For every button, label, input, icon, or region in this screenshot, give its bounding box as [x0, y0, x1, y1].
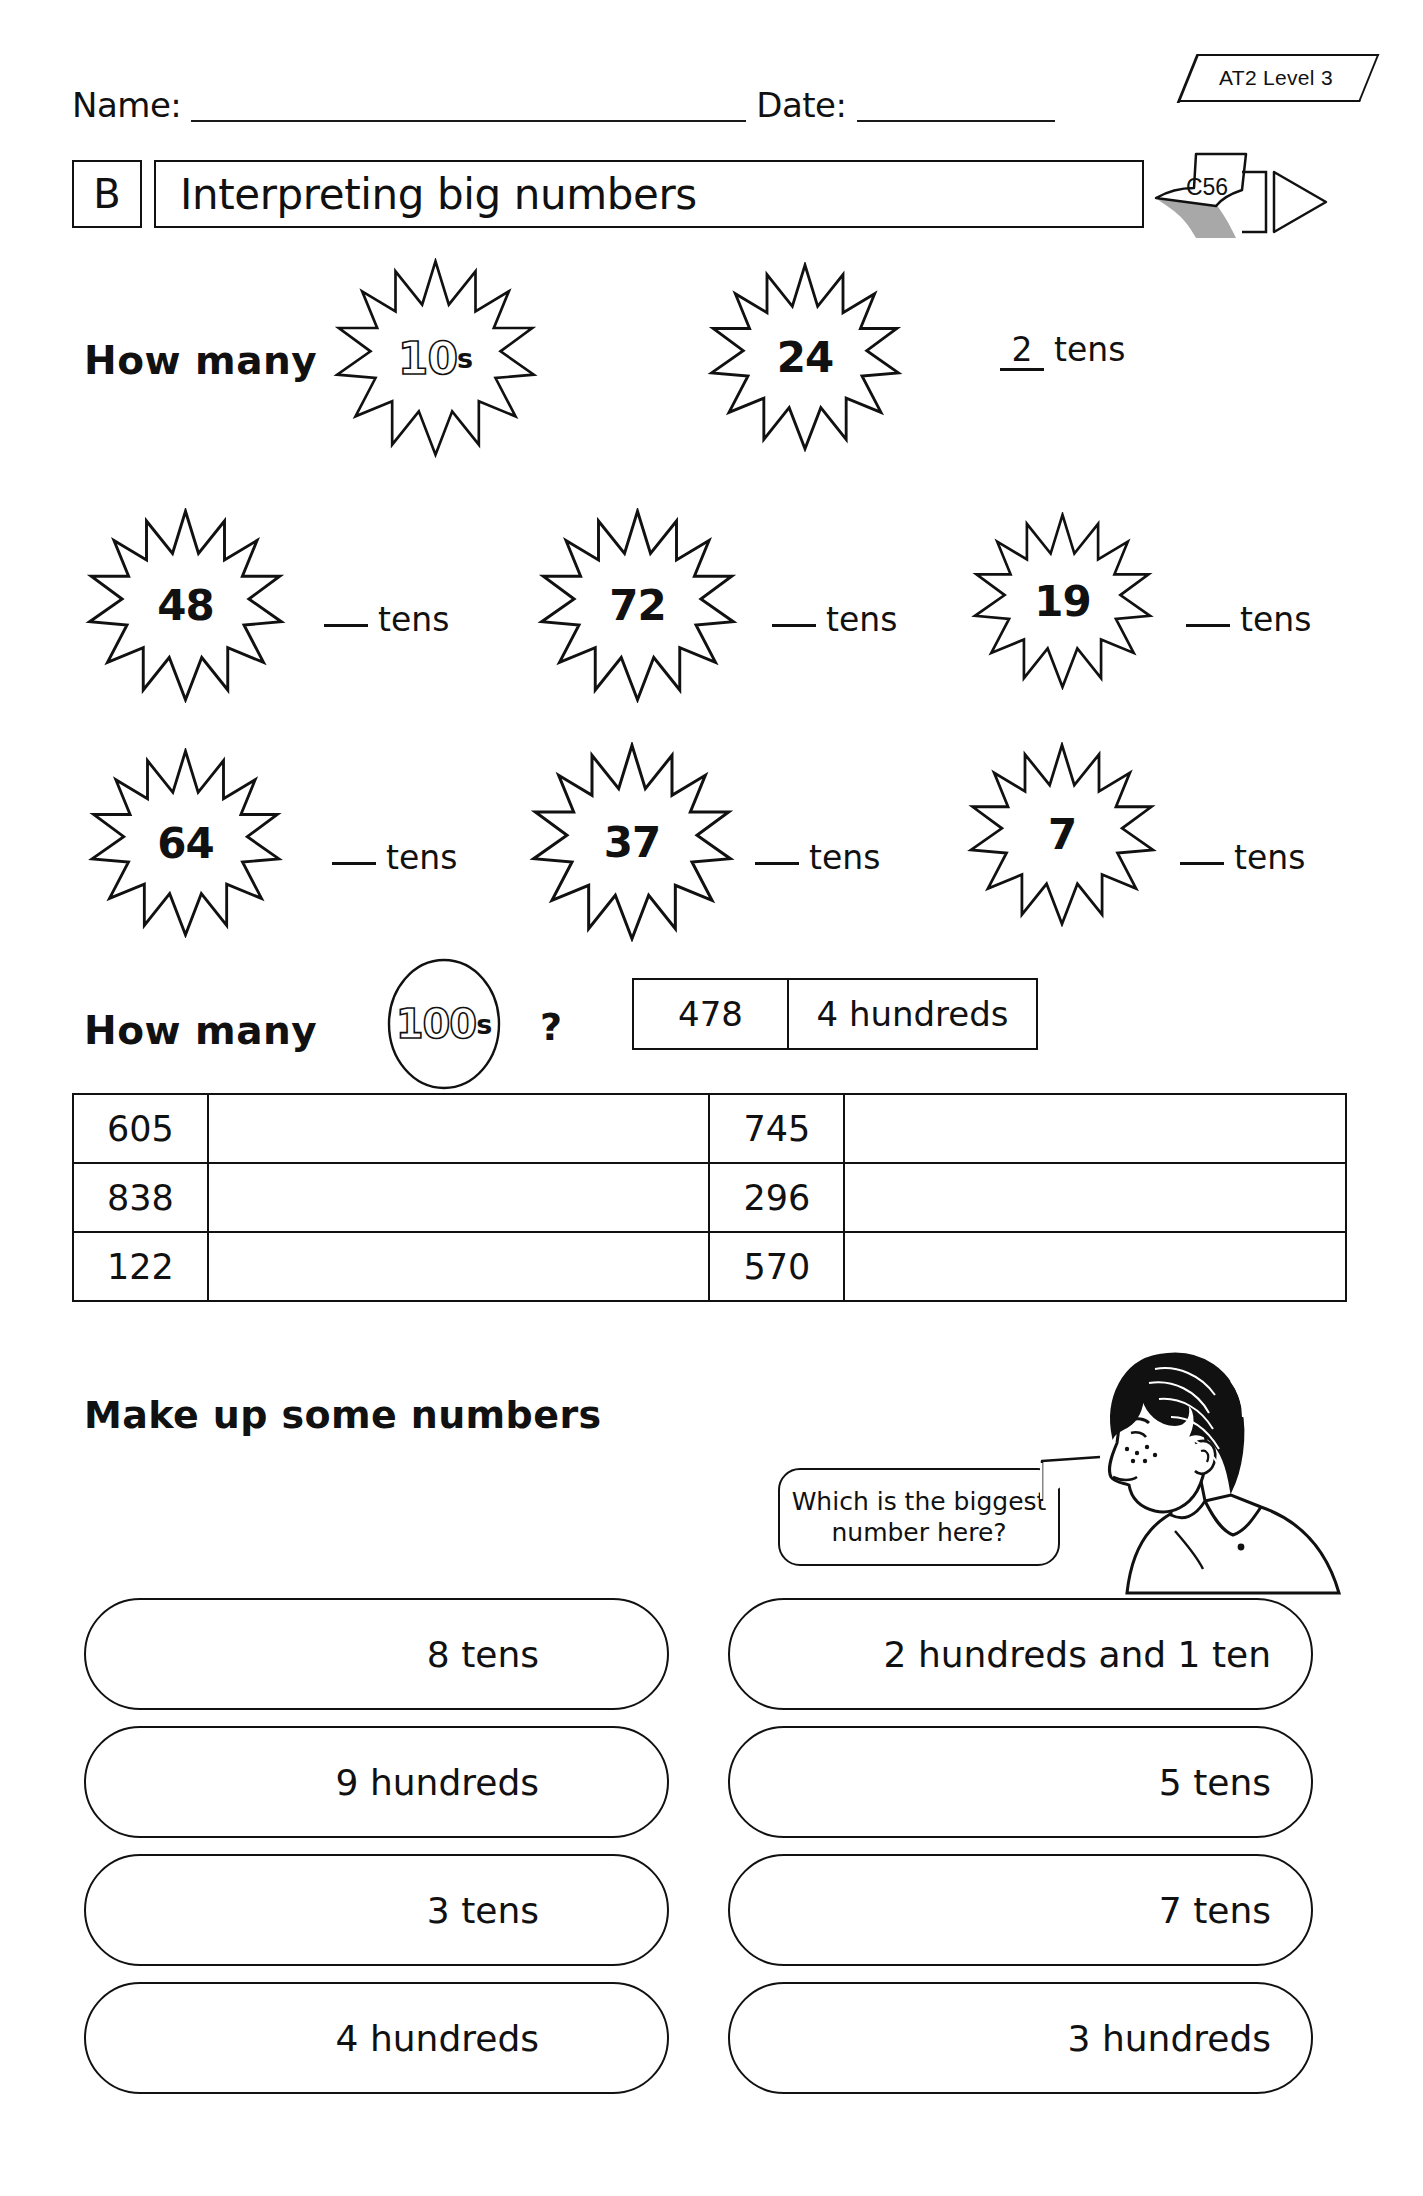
number-pill-right-4[interactable]: 3 hundreds	[728, 1982, 1313, 2094]
cell-answer-blank[interactable]	[844, 1232, 1346, 1301]
table-row: 605 745	[73, 1094, 1346, 1163]
cell-answer-blank[interactable]	[208, 1232, 710, 1301]
worksheet-page: Name: Date: AT2 Level 3 B Interpreting b…	[0, 0, 1423, 2196]
number-pill-left-3[interactable]: 3 tens	[84, 1854, 669, 1966]
at-level-badge: AT2 Level 3	[1178, 54, 1360, 102]
cell-answer-blank[interactable]	[208, 1163, 710, 1232]
hundreds-unit-number: 100	[396, 1001, 477, 1047]
number-pill-right-1[interactable]: 2 hundreds and 1 ten	[728, 1598, 1313, 1710]
hundreds-example-box: 478 4 hundreds	[632, 978, 1038, 1050]
make-up-heading: Make up some numbers	[84, 1393, 602, 1437]
how-many-hundreds-prompt: How many	[84, 1008, 317, 1053]
hundreds-answer-table: 605 745 838 296 122 570	[72, 1093, 1347, 1302]
cell-number: 122	[73, 1232, 208, 1301]
date-label: Date:	[756, 88, 846, 122]
tens-answer-blank-6[interactable]	[1180, 862, 1224, 865]
tens-answer-blank-1[interactable]	[324, 624, 368, 627]
tens-answer-unit-3: tens	[1240, 600, 1311, 639]
tens-example-answer-row: 2tens	[1000, 330, 1125, 371]
speech-bubble-tail	[1040, 1455, 1110, 1505]
tens-example-answer[interactable]: 2	[1000, 333, 1044, 371]
tens-question-burst-6: 7	[962, 742, 1162, 927]
pill-label: 2 hundreds and 1 ten	[730, 1634, 1311, 1675]
tens-question-burst-4: 64	[78, 748, 293, 938]
tens-answer-blank-4[interactable]	[332, 862, 376, 865]
pill-label: 5 tens	[730, 1762, 1311, 1803]
tens-answer-blank-3[interactable]	[1186, 624, 1230, 627]
speech-line-2: number here?	[831, 1517, 1006, 1548]
tens-answer-row-6: tens	[1180, 838, 1305, 877]
section-letter: B	[72, 160, 142, 228]
tens-example-unit: tens	[1054, 330, 1125, 369]
badge-label: AT2 Level 3	[1178, 54, 1360, 102]
cell-answer-blank[interactable]	[844, 1094, 1346, 1163]
pill-label: 4 hundreds	[86, 2018, 667, 2059]
pill-label: 3 hundreds	[730, 2018, 1311, 2059]
hundreds-unit-suffix: s	[476, 1009, 492, 1040]
hundreds-example-answer: 4 hundreds	[789, 980, 1036, 1048]
tens-unit-suffix: s	[457, 343, 473, 374]
curl-connector	[1242, 172, 1266, 232]
number-pill-right-2[interactable]: 5 tens	[728, 1726, 1313, 1838]
number-pill-left-4[interactable]: 4 hundreds	[84, 1982, 669, 2094]
cell-answer-blank[interactable]	[844, 1163, 1346, 1232]
cell-number: 838	[73, 1163, 208, 1232]
name-input-line[interactable]	[191, 96, 746, 122]
tens-answer-row-1: tens	[324, 600, 449, 639]
tens-answer-blank-5[interactable]	[755, 862, 799, 865]
hundreds-unit-ellipse: 100s	[378, 958, 510, 1090]
speech-line-1: Which is the biggest	[792, 1486, 1047, 1517]
number-pill-left-1[interactable]: 8 tens	[84, 1598, 669, 1710]
tens-question-burst-3: 19	[965, 512, 1160, 690]
tens-question-burst-2: 72	[530, 508, 745, 703]
pill-label: 9 hundreds	[86, 1762, 667, 1803]
pill-label: 8 tens	[86, 1634, 667, 1675]
pill-label: 7 tens	[730, 1890, 1311, 1931]
speech-bubble: Which is the biggest number here?	[778, 1468, 1060, 1566]
tens-answer-row-5: tens	[755, 838, 880, 877]
sheet-code-tag: C56	[1138, 150, 1378, 240]
tens-answer-unit-6: tens	[1234, 838, 1305, 877]
cell-number: 570	[709, 1232, 844, 1301]
table-row: 122 570	[73, 1232, 1346, 1301]
hundreds-example-number: 478	[634, 980, 789, 1048]
next-arrow-icon	[1274, 172, 1326, 232]
tens-unit-burst: 10s	[318, 258, 553, 458]
tens-question-burst-5: 37	[522, 742, 742, 942]
tens-answer-unit-5: tens	[809, 838, 880, 877]
tens-answer-row-3: tens	[1186, 600, 1311, 639]
tens-answer-unit-1: tens	[378, 600, 449, 639]
page-title: Interpreting big numbers	[154, 160, 1144, 228]
tens-answer-unit-4: tens	[386, 838, 457, 877]
tens-example-burst: 24	[700, 262, 910, 452]
cell-number: 745	[709, 1094, 844, 1163]
tens-answer-blank-2[interactable]	[772, 624, 816, 627]
name-label: Name:	[72, 88, 181, 122]
cell-answer-blank[interactable]	[208, 1094, 710, 1163]
table-row: 838 296	[73, 1163, 1346, 1232]
tens-unit-number: 10	[398, 333, 457, 384]
number-pill-right-3[interactable]: 7 tens	[728, 1854, 1313, 1966]
title-bar: B Interpreting big numbers	[72, 160, 1144, 228]
hundreds-question-mark: ?	[540, 1005, 562, 1049]
cell-number: 296	[709, 1163, 844, 1232]
name-date-row: Name: Date:	[72, 88, 1162, 122]
sheet-code-label: C56	[1176, 174, 1238, 201]
number-pill-left-2[interactable]: 9 hundreds	[84, 1726, 669, 1838]
tens-answer-row-4: tens	[332, 838, 457, 877]
date-input-line[interactable]	[857, 96, 1055, 122]
tens-question-burst-1: 48	[78, 508, 293, 703]
tens-answer-row-2: tens	[772, 600, 897, 639]
how-many-tens-prompt: How many	[84, 338, 317, 383]
cell-number: 605	[73, 1094, 208, 1163]
tens-answer-unit-2: tens	[826, 600, 897, 639]
pill-label: 3 tens	[86, 1890, 667, 1931]
